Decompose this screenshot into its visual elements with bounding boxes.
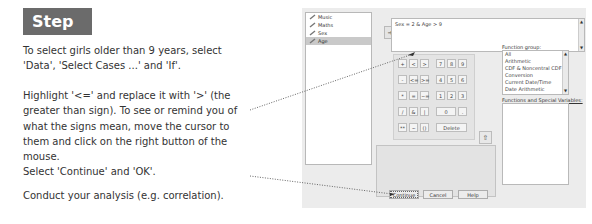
leader-line-greater-than (250, 55, 410, 110)
cursor-arrow-icon (390, 193, 395, 196)
leader-lines (0, 0, 592, 224)
leader-line-continue (250, 176, 392, 194)
